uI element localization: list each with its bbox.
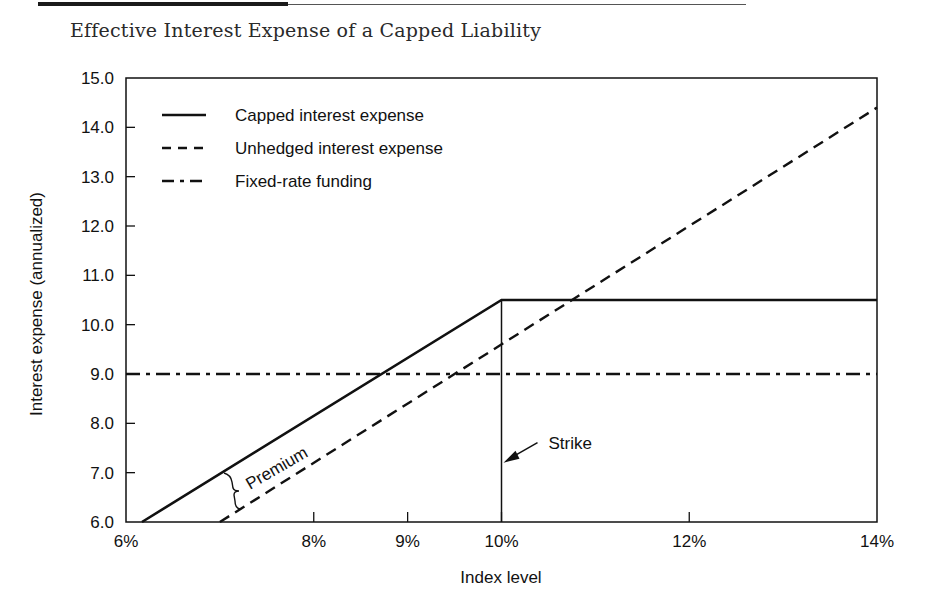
y-axis-ticks: 6.07.08.09.010.011.012.013.014.015.0 [81,69,135,532]
legend-label: Unhedged interest expense [235,139,443,158]
annotations: StrikePremium [224,300,592,522]
strike-label: Strike [549,434,592,453]
x-tick-label: 6% [114,532,139,551]
y-tick-label: 8.0 [90,414,114,433]
y-tick-label: 15.0 [81,69,114,88]
premium-label: Premium [243,443,311,493]
strike-arrow-head [504,451,520,463]
x-tick-label: 14% [860,532,894,551]
x-axis-ticks: 6%8%9%10%12%14% [114,512,894,551]
y-tick-label: 7.0 [90,464,114,483]
y-tick-label: 9.0 [90,365,114,384]
premium-brace [224,473,240,509]
figure-page: Effective Interest Expense of a Capped L… [0,0,934,604]
x-axis-title: Index level [460,568,541,587]
y-tick-label: 12.0 [81,217,114,236]
y-tick-label: 6.0 [90,513,114,532]
legend: Capped interest expenseUnhedged interest… [162,106,443,191]
y-tick-label: 13.0 [81,168,114,187]
y-tick-label: 10.0 [81,316,114,335]
y-tick-label: 14.0 [81,118,114,137]
legend-label: Fixed-rate funding [235,172,372,191]
x-tick-label: 9% [395,532,420,551]
legend-label: Capped interest expense [235,106,424,125]
y-tick-label: 11.0 [82,266,114,285]
x-tick-label: 8% [301,532,326,551]
series-line-unhedged-interest-expense [220,108,877,522]
chart: 6.07.08.09.010.011.012.013.014.015.0 6%8… [0,0,934,604]
x-tick-label: 12% [672,532,706,551]
y-axis-title: Interest expense (annualized) [27,192,46,416]
x-tick-label: 10% [484,532,518,551]
